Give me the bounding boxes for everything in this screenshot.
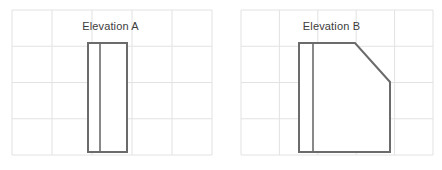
panel-elevation-b: Elevation B: [221, 0, 442, 170]
elevation-a-drawing: [0, 0, 221, 170]
elevation-a-outline: [88, 43, 127, 152]
shape-elevation-a: [88, 43, 127, 152]
shape-elevation-b: [299, 43, 390, 152]
panel-elevation-a: Elevation A: [0, 0, 221, 170]
elevation-b-drawing: [221, 0, 442, 170]
elevation-diagram-screenshot: Elevation A: [0, 0, 442, 170]
